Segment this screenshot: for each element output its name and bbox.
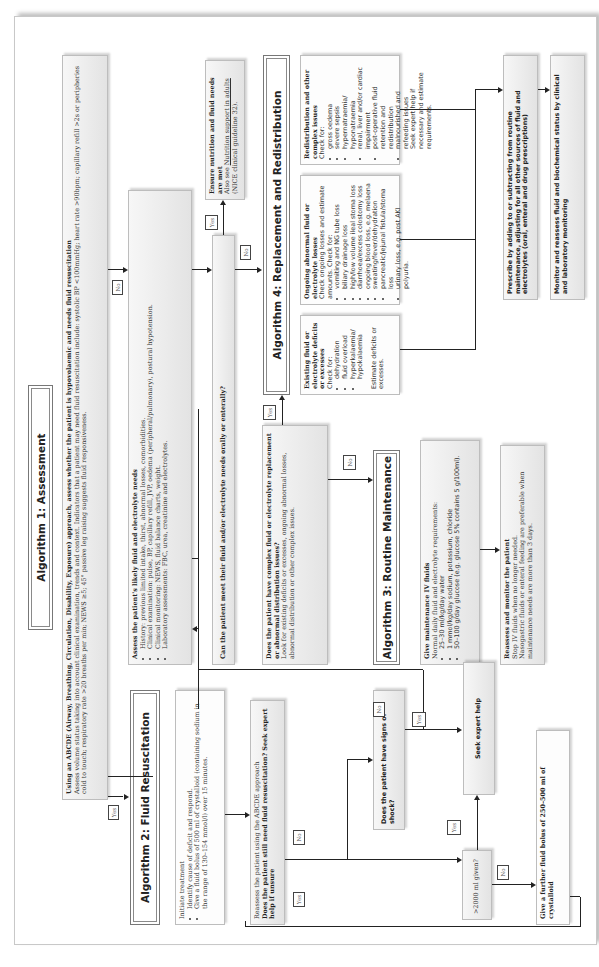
can-meet-needs-question: Can the patient meet their fluid and/or … [220,386,228,659]
connector-loop [245,926,580,927]
assess-needs-item: Laboratory assessments: FBC, urea, creat… [162,196,170,649]
connector-yes-2000 [285,859,457,860]
nutrition-suffix: (NICE clinical guideline 32). [231,102,239,194]
maintenance-item: 50–100 g/day glucose (e.g. glucose 5% co… [454,446,462,649]
reassess-monitor-box: Reassess and monitor the patient Stop IV… [500,445,545,665]
connector-return [198,669,340,670]
label-yes: Yes [447,820,461,835]
complex-body: Look for existing deficits or excesses, … [281,431,296,659]
arrow-down-icon [457,727,462,733]
label-yes: Yes [205,215,218,230]
connector-line [192,269,208,270]
redistribution-item: hypernatraemia/ hyponatraemia [342,61,357,149]
arrow-right-icon [220,200,226,205]
reassess-question: Does the patient still need fluid resusc… [262,706,277,919]
complex-heading: Does the patient have complex fluid or e… [266,431,281,659]
connector-return [198,409,199,709]
connector-line [225,814,245,815]
connector-loop [580,897,581,927]
seek-help-text: Seek expert help [475,698,483,759]
redistribution-footer: Seek expert help if necessary and estima… [410,61,433,159]
arrow-down-icon [545,87,550,93]
arrow-down-icon [123,267,128,273]
arrow-down-icon [207,267,212,273]
arrow-down-icon [368,757,373,763]
connector-yes-alg4 [282,400,283,425]
connector-line [475,90,476,350]
connector-line [400,239,475,240]
existing-heading: Existing fluid or electrolyte deficits o… [304,321,327,389]
ongoing-check: Check ongoing losses and estimate amount… [319,181,334,299]
connector-yes-shock [405,729,458,730]
reassess-abcde-box: Reassess the patient using the ABCDE app… [250,700,285,925]
nutrition-heading: Ensure nutrition and fluid needs are met [209,66,224,194]
ongoing-item: urinary loss, e.g. post AKI polyuria. [395,181,410,289]
ongoing-heading: Ongoing abnormal fluid or electrolyte lo… [304,181,319,299]
prescribe-box: Prescribe by adding to or subtracting fr… [503,55,538,300]
redistribution-box: Redistribution and other complex issues … [300,55,400,165]
further-bolus-text: Give a further fluid bolus of 250–500 ml… [539,767,555,919]
ongoing-item: pancreatic/jejunal fistula/stoma loss [380,181,395,289]
redistribution-item: renal, liver and/or cardiac impairment [357,61,372,149]
connector-line [400,109,475,110]
label-yes: Yes [108,805,119,820]
arrow-down-icon [257,267,262,273]
over-2000ml-box: >2000 ml given? [462,850,492,920]
further-bolus-box: Give a further fluid bolus of 250–500 ml… [536,730,570,925]
algorithm4-title: Algorithm 4: Replacement and Redistribut… [263,55,290,395]
label-no: No [112,280,123,295]
connector-line [235,269,257,270]
abcde-assessment-box: Using an ABCDE (Airway, Breathing, Circu… [62,55,108,800]
connector-no-alg3 [328,479,368,480]
connector-line [475,89,499,90]
complex-issues-box: Does the patient have complex fluid or e… [262,425,328,665]
arrow-down-icon [124,794,129,800]
label-no: No [497,865,509,880]
reassess-monitor-line2: Nasogastric fluids or enteral feeding ar… [519,451,534,659]
initiate-treatment-box: Initiate treatment Identify cause of def… [175,690,225,925]
prescribe-text: Prescribe by adding to or subtracting fr… [506,90,529,294]
can-meet-needs-box: Can the patient meet their fluid and/or … [212,235,235,665]
arrow-down-icon [457,857,462,863]
abcde-body: Assess volume status taking into account… [74,61,89,794]
algorithm1-title: Algorithm 1: Assessment [28,385,53,630]
existing-footer: Estimate deficits or excesses. [371,321,386,389]
label-no: No [240,245,251,260]
arrow-down-icon [368,477,373,483]
nutrition-box: Ensure nutrition and fluid needs are met… [205,60,245,200]
algorithm2-title: Algorithm 2: Fluid Resuscitation [130,690,160,925]
connector-line [108,796,123,797]
connector-line [400,349,475,350]
existing-item: hyperkalaemia/ hypokalaemia [350,321,365,379]
monitor-reassess-box: Monitor and reassess fluid and biochemic… [550,55,585,300]
arrow-right-icon [279,395,285,400]
redistribution-item: malnourished and refeeding issues [395,61,410,149]
arrow-down-icon [245,812,250,818]
arrow-down-icon [495,547,500,553]
ongoing-losses-box: Ongoing abnormal fluid or electrolyte lo… [300,175,400,305]
connector-line [480,549,495,550]
label-no: No [293,830,305,845]
arrow-down-icon [531,882,536,888]
label-yes: Yes [263,405,276,420]
connector-loop [245,921,246,927]
connector-yes-2000-help [477,800,478,850]
algorithm3-title: Algorithm 3: Routine Maintenance [373,450,400,665]
arrow-up-icon [192,626,197,632]
label-yes: Yes [293,892,305,907]
connector-loop [570,896,580,897]
redistribution-item: post-operative fluid retention and redis… [372,61,395,149]
arrow-right-icon [474,795,480,800]
assess-needs-box: Assess the patient's likely fluid and el… [128,190,192,665]
monitor-reassess-text: Monitor and reassess fluid and biochemic… [553,74,569,294]
redistribution-heading: Redistribution and other complex issues [304,61,319,159]
maintenance-box: Give maintenance IV fluids Normal daily … [420,440,480,665]
connector-no-2000 [492,884,531,885]
over-2000ml-question: >2000 ml given? [473,859,481,914]
initiate-item: Give a fluid bolus of 500 ml of crystall… [194,696,209,909]
connector-yes-abcde [108,776,153,777]
existing-deficits-box: Existing fluid or electrolyte deficits o… [300,315,400,395]
label-no: No [373,702,385,717]
connector-line [347,759,368,760]
rotated-flowchart-page: Algorithm 1: Assessment Using an ABCDE (… [0,0,599,967]
